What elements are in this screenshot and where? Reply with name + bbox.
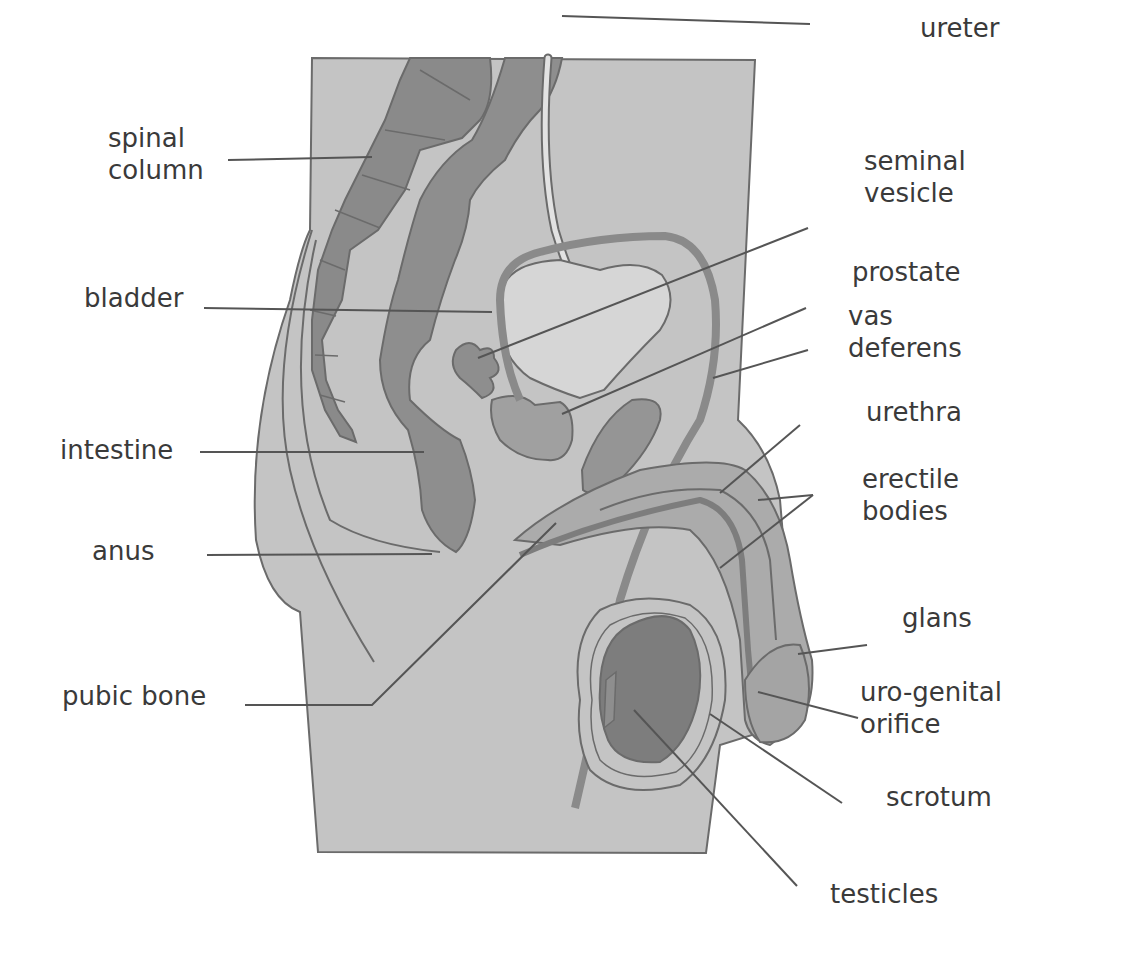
label-testicles: testicles — [830, 878, 938, 910]
label-anus: anus — [92, 535, 154, 567]
epididymis-shape — [604, 672, 616, 728]
label-prostate: prostate — [852, 256, 960, 288]
label-ureter: ureter — [920, 12, 999, 44]
label-uro-genital-orifice: uro-genital orifice — [860, 676, 1002, 740]
leader-line-anus — [207, 554, 432, 555]
label-spinal-column: spinal column — [108, 122, 204, 186]
label-pubic-bone: pubic bone — [62, 680, 206, 712]
label-glans: glans — [902, 602, 972, 634]
label-scrotum: scrotum — [886, 781, 992, 813]
label-bladder: bladder — [84, 282, 183, 314]
label-seminal-vesicle: seminal vesicle — [864, 145, 966, 209]
label-urethra: urethra — [866, 396, 962, 428]
label-vas-deferens: vas deferens — [848, 300, 962, 364]
leader-line-ureter — [562, 16, 810, 24]
label-erectile-bodies: erectile bodies — [862, 463, 959, 527]
label-intestine: intestine — [60, 434, 173, 466]
